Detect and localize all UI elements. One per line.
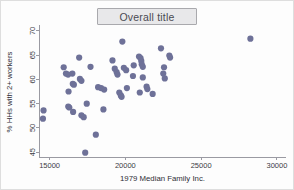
scatter-point xyxy=(123,67,129,73)
x-tick-label: 25000 xyxy=(191,161,212,170)
scatter-point xyxy=(69,70,75,76)
scatter-point xyxy=(109,57,115,63)
scatter-point xyxy=(150,91,156,97)
scatter-point xyxy=(40,116,46,122)
x-tick-label: 30000 xyxy=(266,161,287,170)
data-points xyxy=(40,36,254,156)
scatter-point xyxy=(140,64,146,70)
scatter-point xyxy=(137,89,143,95)
y-tick-label: 55 xyxy=(29,99,38,107)
scatter-point xyxy=(118,94,124,100)
y-tick-label: 65 xyxy=(29,51,38,59)
scatter-point xyxy=(93,132,99,138)
y-tick-label: 45 xyxy=(29,148,38,156)
scatter-point xyxy=(162,75,168,81)
y-tick-label: 60 xyxy=(29,75,38,83)
scatter-point xyxy=(82,150,88,156)
y-tick-label: 50 xyxy=(29,124,38,132)
scatter-point xyxy=(101,86,107,92)
scatter-point xyxy=(61,64,67,70)
scatter-point xyxy=(40,107,46,113)
scatter-point xyxy=(71,82,77,88)
scatter-point xyxy=(167,54,173,60)
scatter-point xyxy=(81,114,87,120)
scatter-point xyxy=(119,38,125,44)
scatter-point xyxy=(78,78,84,84)
scatter-point xyxy=(161,64,167,70)
scatter-point xyxy=(87,64,93,70)
x-axis-title: 1979 Median Family Inc. xyxy=(120,174,205,183)
scatter-point xyxy=(140,74,146,80)
scatter-point xyxy=(70,109,76,115)
x-tick-label: 20000 xyxy=(115,161,136,170)
scatter-point xyxy=(76,54,82,60)
y-tick-label: 70 xyxy=(29,27,38,35)
y-axis-title: % HHs with 2+ workers xyxy=(5,51,14,132)
scatter-point xyxy=(158,45,164,51)
chart-figure: Overall title 45505560657015000200002500… xyxy=(0,0,294,190)
scatter-point xyxy=(131,62,137,68)
scatter-point xyxy=(84,101,90,107)
axis-labels: 1979 Median Family Inc.% HHs with 2+ wor… xyxy=(5,51,205,183)
scatter-point xyxy=(65,88,71,94)
axes: 45505560657015000200002500030000 xyxy=(29,25,288,170)
scatter-point xyxy=(247,36,253,42)
scatter-point xyxy=(114,71,120,77)
scatter-point xyxy=(144,86,150,92)
scatter-point xyxy=(100,106,106,112)
scatter-point xyxy=(124,85,130,91)
x-tick-label: 15000 xyxy=(39,161,60,170)
scatter-point xyxy=(130,73,136,79)
scatter-plot: 45505560657015000200002500030000 1979 Me… xyxy=(0,0,294,190)
